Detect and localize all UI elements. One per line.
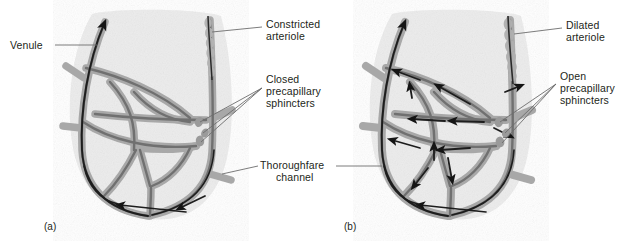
panel-caption-a: (a) xyxy=(44,221,56,232)
label-closed-sphincters-line1: Closed xyxy=(266,73,299,85)
label-thoroughfare-line2: channel xyxy=(276,171,313,183)
label-open-sphincters-line1: Open xyxy=(560,70,586,82)
label-constricted-arteriole-line2: arteriole xyxy=(266,30,305,42)
capillary-arrow-b-3 xyxy=(452,121,484,122)
label-dilated-arteriole-line1: Dilated xyxy=(566,19,599,31)
label-closed-sphincters-line3: sphincters xyxy=(266,97,315,109)
panel-caption-b: (b) xyxy=(344,221,356,232)
label-venule: Venule xyxy=(10,39,43,51)
label-constricted-arteriole-line1: Constricted xyxy=(266,18,320,30)
label-open-sphincters-line2: precapillary xyxy=(560,82,615,94)
label-closed-sphincters-line2: precapillary xyxy=(266,85,321,97)
label-thoroughfare-line1: Thoroughfare xyxy=(260,159,324,171)
label-dilated-arteriole-line2: arteriole xyxy=(566,31,605,43)
label-open-sphincters-line3: sphincters xyxy=(560,94,609,106)
capillary-bed-figure xyxy=(0,0,636,252)
leader-thoroughfare-a xyxy=(222,166,258,174)
